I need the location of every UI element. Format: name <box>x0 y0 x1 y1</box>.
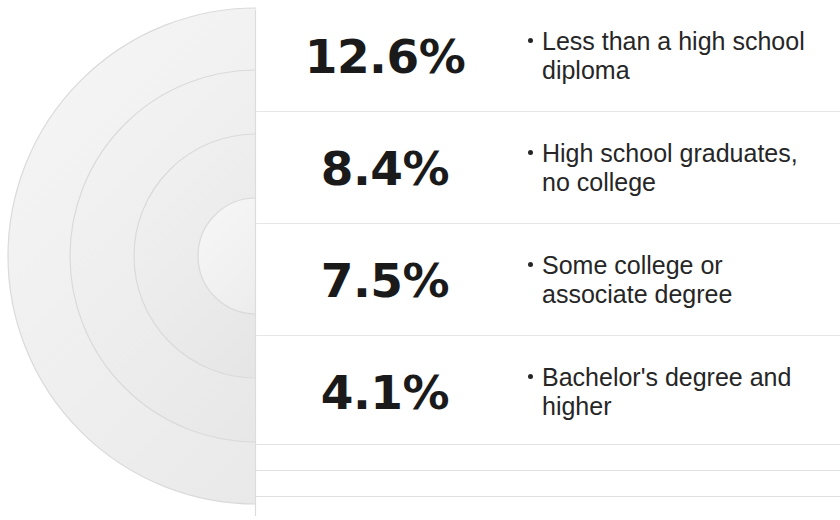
category-label: Less than a high school diploma <box>542 27 832 85</box>
percent-value: 12.6% <box>305 29 466 84</box>
percent-cell: 4.1% <box>256 369 528 416</box>
list-item[interactable]: 7.5% Some college or associate degree <box>256 224 840 336</box>
list-item[interactable]: 12.6% Less than a high school diploma <box>256 0 840 112</box>
category-label: Some college or associate degree <box>542 251 832 309</box>
list-item[interactable]: 4.1% Bachelor's degree and higher <box>256 336 840 448</box>
education-unemployment-list: 12.6% Less than a high school diploma 8.… <box>256 0 840 520</box>
label-cell: Some college or associate degree <box>528 251 840 309</box>
label-cell: Less than a high school diploma <box>528 27 840 85</box>
label-cell: High school graduates, no college <box>528 139 840 197</box>
category-label: Bachelor's degree and higher <box>542 363 832 421</box>
percent-value: 8.4% <box>321 141 449 196</box>
bullet-icon <box>528 374 533 379</box>
percent-cell: 8.4% <box>256 145 528 192</box>
label-cell: Bachelor's degree and higher <box>528 363 840 421</box>
list-item[interactable]: 8.4% High school graduates, no college <box>256 112 840 224</box>
slide-canvas: 12.6% Less than a high school diploma 8.… <box>0 0 840 520</box>
percent-value: 4.1% <box>321 365 449 420</box>
bullet-icon <box>528 150 533 155</box>
percent-cell: 7.5% <box>256 257 528 304</box>
percent-value: 7.5% <box>321 253 449 308</box>
bullet-icon <box>528 38 533 43</box>
category-label: High school graduates, no college <box>542 139 832 197</box>
bullet-icon <box>528 262 533 267</box>
percent-cell: 12.6% <box>256 33 528 80</box>
